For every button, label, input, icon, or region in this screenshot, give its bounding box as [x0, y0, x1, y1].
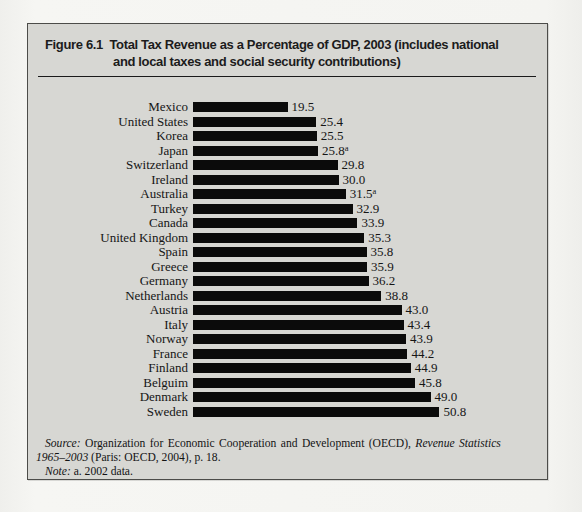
bar [193, 392, 431, 402]
chart-row: United States25.4 [28, 115, 547, 130]
bar [193, 218, 357, 228]
value-label: 43.0 [406, 303, 429, 318]
chart-row: Belguim45.8 [28, 376, 547, 391]
bar [193, 189, 346, 199]
country-label: Norway [28, 332, 188, 347]
country-label: Australia [28, 187, 188, 202]
bar [193, 320, 404, 330]
source-segment: Organization for Economic Cooperation an… [81, 437, 416, 450]
scanned-page: Figure 6.1 Total Tax Revenue as a Percen… [0, 0, 582, 512]
bar [193, 262, 367, 272]
note-line: Note: a. 2002 data. [36, 465, 539, 479]
title-rule [38, 76, 536, 77]
bar [193, 233, 364, 243]
bar [193, 117, 316, 127]
note-marker: a [345, 143, 349, 153]
country-label: Japan [28, 144, 188, 159]
chart-row: Canada33.9 [28, 216, 547, 231]
source-segment-italic: 1965–2003 [36, 451, 88, 464]
value-label: 31.5a [350, 187, 377, 202]
bar [193, 247, 367, 257]
country-label: Sweden [28, 405, 188, 420]
chart-row: Australia31.5a [28, 187, 547, 202]
chart-row: Austria43.0 [28, 303, 547, 318]
value-label: 36.2 [373, 274, 396, 289]
value-label: 43.9 [410, 332, 433, 347]
country-label: Turkey [28, 202, 188, 217]
source-segment-italic: Revenue Statistics [415, 437, 501, 450]
country-label: Ireland [28, 173, 188, 188]
source-line-1: Source: Organization for Economic Cooper… [36, 437, 539, 451]
country-label: France [28, 347, 188, 362]
value-label: 35.3 [368, 231, 391, 246]
bar [193, 407, 439, 417]
value-label: 25.5 [321, 129, 344, 144]
value-label: 44.2 [411, 347, 434, 362]
bar [193, 305, 402, 315]
bar [193, 131, 317, 141]
bar [193, 378, 415, 388]
chart-row: Finland44.9 [28, 361, 547, 376]
figure-title: Figure 6.1 Total Tax Revenue as a Percen… [45, 36, 533, 70]
chart-row: Switzerland29.8 [28, 158, 547, 173]
value-label: 35.8 [371, 245, 394, 260]
country-label: Switzerland [28, 158, 188, 173]
source-line-2: 1965–2003 (Paris: OECD, 2004), p. 18. [36, 451, 539, 465]
chart-row: Turkey32.9 [28, 202, 547, 217]
chart-row: Norway43.9 [28, 332, 547, 347]
country-label: Mexico [28, 100, 188, 115]
bar [193, 363, 411, 373]
bar [193, 175, 339, 185]
value-label: 49.0 [435, 390, 458, 405]
chart-row: Italy43.4 [28, 318, 547, 333]
value-label: 30.0 [343, 173, 366, 188]
value-label: 44.9 [415, 361, 438, 376]
bar [193, 291, 381, 301]
source-note-block: Source: Organization for Economic Cooper… [36, 437, 539, 479]
value-label: 25.4 [320, 115, 343, 130]
source-segment-italic: Note: [45, 465, 71, 478]
chart-row: France44.2 [28, 347, 547, 362]
chart-row: Korea25.5 [28, 129, 547, 144]
value-label: 50.8 [443, 405, 466, 420]
figure-title-line2: and local taxes and social security cont… [113, 53, 533, 70]
country-label: Austria [28, 303, 188, 318]
source-segment-italic: Source: [45, 437, 81, 450]
country-label: Korea [28, 129, 188, 144]
value-label: 38.8 [385, 289, 408, 304]
note-marker: a [373, 186, 377, 196]
value-label: 43.4 [408, 318, 431, 333]
bar [193, 204, 353, 214]
chart-row: Mexico19.5 [28, 100, 547, 115]
figure-title-line1: Figure 6.1 Total Tax Revenue as a Percen… [45, 36, 533, 53]
source-segment: a. 2002 data. [71, 465, 133, 478]
value-label: 32.9 [357, 202, 380, 217]
country-label: Germany [28, 274, 188, 289]
chart-row: Greece35.9 [28, 260, 547, 275]
chart-row: Netherlands38.8 [28, 289, 547, 304]
country-label: Denmark [28, 390, 188, 405]
value-label: 45.8 [419, 376, 442, 391]
bar [193, 276, 369, 286]
chart-row: Ireland30.0 [28, 173, 547, 188]
chart-row: Japan25.8a [28, 144, 547, 159]
country-label: Spain [28, 245, 188, 260]
value-label: 25.8a [322, 144, 349, 159]
chart-row: Denmark49.0 [28, 390, 547, 405]
value-label: 29.8 [342, 158, 365, 173]
country-label: Greece [28, 260, 188, 275]
chart-row: Spain35.8 [28, 245, 547, 260]
bar [193, 349, 407, 359]
bar-chart: Mexico19.5United States25.4Korea25.5Japa… [28, 100, 547, 419]
value-label: 19.5 [292, 100, 315, 115]
value-label: 33.9 [361, 216, 384, 231]
country-label: Canada [28, 216, 188, 231]
country-label: Belguim [28, 376, 188, 391]
figure-box: Figure 6.1 Total Tax Revenue as a Percen… [27, 23, 548, 480]
source-segment: (Paris: OECD, 2004), p. 18. [88, 451, 220, 464]
country-label: United States [28, 115, 188, 130]
chart-row: Germany36.2 [28, 274, 547, 289]
bar [193, 102, 288, 112]
country-label: United Kingdom [28, 231, 188, 246]
bar [193, 146, 318, 156]
